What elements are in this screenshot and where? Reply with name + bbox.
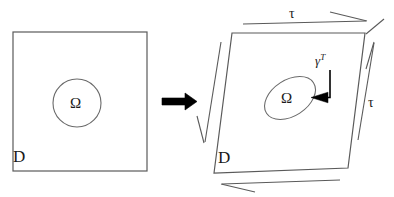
deformed-subdomain-label: Ω	[281, 91, 292, 106]
figure-canvas	[0, 0, 394, 197]
deformed-domain-label: D	[218, 149, 230, 166]
reference-subdomain-label: Ω	[70, 96, 81, 111]
map-label: γT	[315, 53, 325, 67]
traction-arrow-left	[197, 42, 221, 143]
reference-domain-label: D	[13, 148, 25, 165]
traction-label-right: τ	[368, 96, 374, 110]
map-label-superscript: T	[320, 52, 325, 62]
traction-arrow-bottom	[221, 180, 340, 192]
traction-arrow-top	[243, 12, 367, 24]
traction-label-top: τ	[289, 7, 295, 21]
deformation-figure: D Ω D Ω γT τ τ	[0, 0, 394, 197]
corner-tick-mark	[366, 19, 384, 34]
transform-arrow-icon	[162, 93, 197, 110]
